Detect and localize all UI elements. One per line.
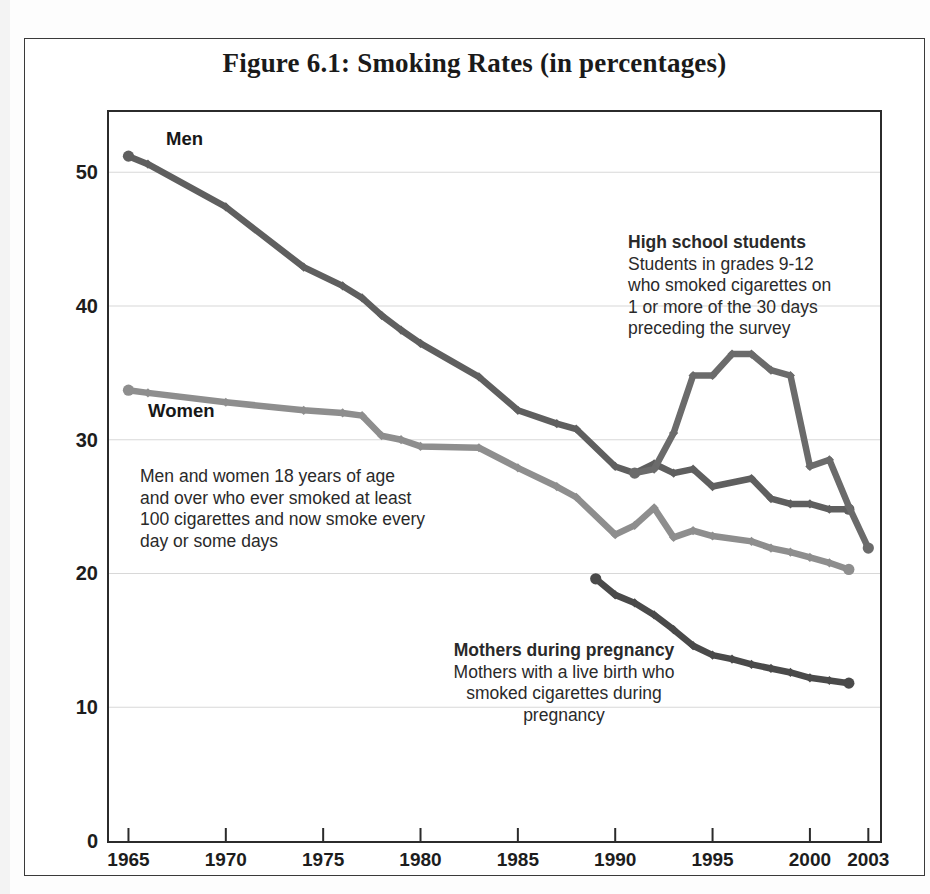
annotation-men-women-line-2: and over who ever smoked at least [140,488,440,510]
figure-title: Figure 6.1: Smoking Rates (in percentage… [24,48,925,79]
figure-page: Figure 6.1: Smoking Rates (in percentage… [0,0,930,894]
y-tick-label: 40 [42,294,98,317]
annotation-men-women-line-4: day or some days [140,531,440,553]
annotation-high-school-line-2: who smoked cigarettes on [628,275,878,297]
annotation-mothers-heading: Mothers during pregnancy [454,640,675,660]
annotation-high-school-line-4: preceding the survey [628,318,878,340]
scan-edge [0,0,10,894]
y-tick-label: 30 [42,428,98,451]
annotation-high-school-line-1: Students in grades 9-12 [628,254,878,276]
x-tick-label: 1985 [497,849,539,871]
y-tick-label: 50 [42,161,98,184]
x-tick-label: 1990 [594,849,636,871]
annotation-mothers-line-2: smoked cigarettes during [404,683,724,705]
annotation-men-women-line-3: 100 cigarettes and now smoke every [140,509,440,531]
y-tick-label: 0 [42,830,98,853]
x-tick-label: 1970 [205,849,247,871]
x-tick-label: 1965 [107,849,149,871]
x-tick-label: 1975 [302,849,344,871]
x-tick-label: 2000 [789,849,831,871]
y-axis-labels: 01020304050 [40,110,98,843]
series-label-men: Men [166,128,203,150]
x-tick-label: 1995 [691,849,733,871]
x-tick-label: 2003 [847,849,889,871]
annotation-mothers: Mothers during pregnancy Mothers with a … [404,640,724,726]
annotation-men-women: Men and women 18 years of age and over w… [140,466,440,552]
y-tick-label: 20 [42,562,98,585]
series-label-women: Women [148,400,214,422]
annotation-high-school-heading: High school students [628,232,806,252]
annotation-mothers-line-3: pregnancy [404,705,724,727]
y-tick-label: 10 [42,696,98,719]
annotation-mothers-line-1: Mothers with a live birth who [404,662,724,684]
x-axis-labels: 196519701975198019851990199520002003 [107,849,882,883]
annotation-high-school: High school students Students in grades … [628,232,878,340]
annotation-high-school-line-3: 1 or more of the 30 days [628,297,878,319]
annotation-men-women-line-1: Men and women 18 years of age [140,466,440,488]
x-tick-label: 1980 [399,849,441,871]
